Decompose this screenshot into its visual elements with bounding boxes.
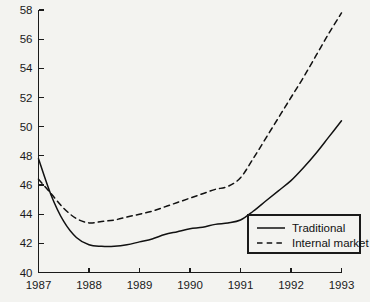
y-tick-label: 44	[20, 208, 33, 220]
chart-legend: TraditionalInternal market	[248, 215, 370, 253]
x-tick-label: 1989	[127, 279, 153, 291]
y-tick-label: 50	[20, 121, 33, 133]
x-tick-label: 1990	[177, 279, 203, 291]
x-axis: 1987198819891990199119921993	[26, 268, 355, 291]
y-tick-label: 52	[20, 92, 33, 104]
x-tick-label: 1988	[76, 279, 102, 291]
legend-label: Internal market	[292, 237, 370, 249]
y-tick-label: 54	[20, 62, 33, 74]
x-tick-label: 1993	[329, 279, 355, 291]
y-axis: 40424446485052545658	[20, 4, 44, 279]
x-tick-label: 1991	[228, 279, 254, 291]
y-tick-label: 56	[20, 33, 33, 45]
y-tick-label: 58	[20, 4, 33, 16]
series-line-internal-market	[39, 13, 342, 223]
x-tick-label: 1987	[26, 279, 52, 291]
y-axis-ticks: 40424446485052545658	[20, 4, 44, 279]
data-series-group	[39, 13, 342, 247]
line-chart: 40424446485052545658 1987198819891990199…	[0, 0, 370, 302]
legend-label: Traditional	[292, 222, 345, 234]
y-tick-label: 46	[20, 179, 33, 191]
chart-canvas: 40424446485052545658 1987198819891990199…	[0, 0, 370, 302]
y-tick-label: 42	[20, 237, 33, 249]
y-tick-label: 48	[20, 150, 33, 162]
x-tick-label: 1992	[278, 279, 304, 291]
y-tick-label: 40	[20, 267, 33, 279]
x-axis-ticks: 1987198819891990199119921993	[26, 268, 355, 291]
